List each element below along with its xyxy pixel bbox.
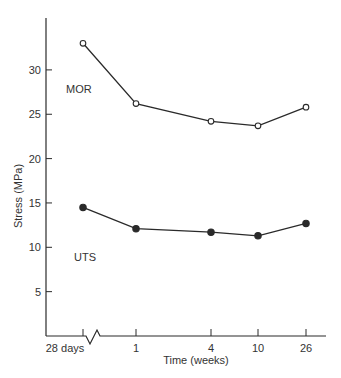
data-series [80, 41, 309, 240]
data-point-mor [255, 123, 261, 129]
y-axis-ticks: 51015202530 [29, 64, 52, 298]
x-tick-label: 28 days [46, 342, 85, 354]
y-tick-label: 10 [29, 241, 41, 253]
data-point-mor [133, 101, 139, 107]
y-tick-label: 5 [35, 286, 41, 298]
series-label-mor: MOR [66, 83, 92, 95]
x-axis-line-with-break [46, 330, 326, 344]
x-tick-label: 26 [300, 342, 312, 354]
data-point-uts [80, 204, 86, 210]
x-axis-ticks: 28 days141026 [46, 329, 312, 354]
series-line-mor [83, 43, 306, 126]
series-line-uts [83, 207, 306, 235]
data-point-uts [255, 233, 261, 239]
y-tick-label: 30 [29, 64, 41, 76]
data-point-uts [303, 220, 309, 226]
data-point-mor [208, 119, 214, 125]
x-tick-label: 10 [252, 342, 264, 354]
y-tick-label: 20 [29, 153, 41, 165]
x-axis-title: Time (weeks) [163, 354, 229, 366]
axes [46, 18, 326, 344]
data-point-mor [303, 104, 309, 110]
series-label-uts: UTS [74, 251, 96, 263]
data-point-mor [80, 41, 86, 47]
stress-time-chart: 51015202530 28 days141026 Stress (MPa) T… [0, 0, 341, 378]
x-tick-label: 4 [208, 342, 214, 354]
data-point-uts [208, 229, 214, 235]
x-tick-label: 1 [133, 342, 139, 354]
data-point-uts [133, 226, 139, 232]
y-tick-label: 15 [29, 197, 41, 209]
y-axis-title: Stress (MPa) [12, 164, 24, 228]
y-tick-label: 25 [29, 108, 41, 120]
